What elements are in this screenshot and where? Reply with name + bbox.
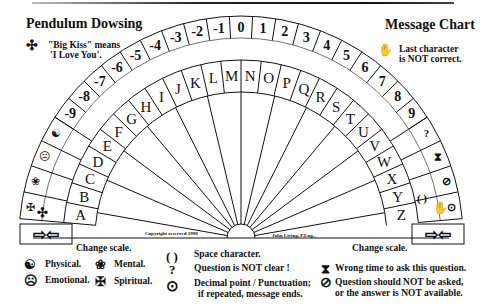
- legend-space: Space character.: [194, 249, 261, 260]
- yin-yang-icon: ☯: [24, 259, 36, 271]
- legend-should-not: Question should NOT be asked, or the ans…: [335, 277, 463, 299]
- space-cell[interactable]: ( ): [417, 192, 427, 205]
- letter-cell-H[interactable]: H: [140, 99, 151, 115]
- number-cell-2[interactable]: 2: [281, 24, 288, 39]
- number-cell-0[interactable]: 0: [238, 20, 245, 35]
- letter-cell-O[interactable]: O: [263, 70, 274, 86]
- number-cell-6[interactable]: 6: [362, 60, 369, 75]
- legend-wrong-time: Wrong time to ask this question.: [335, 263, 466, 274]
- letter-cell-X[interactable]: X: [386, 171, 397, 187]
- letter-cell-P[interactable]: P: [282, 75, 290, 91]
- prohibited-icon: ⊘: [320, 277, 332, 289]
- number-cell-9[interactable]: 9: [408, 106, 415, 121]
- legend-question: Question is NOT clear !: [194, 263, 290, 274]
- last-char-note: Last character is NOT correct.: [399, 44, 462, 64]
- last-char-note-line2: is NOT correct.: [399, 54, 462, 64]
- letter-cell-F[interactable]: F: [114, 124, 122, 140]
- legend-decimal-line1: Decimal point / Punctuation;: [194, 278, 311, 289]
- letter-cell-Q[interactable]: Q: [299, 81, 310, 97]
- number-cell--9[interactable]: -9: [64, 106, 76, 121]
- letter-cell-K[interactable]: K: [190, 75, 201, 91]
- number-cell--8[interactable]: -8: [78, 89, 90, 104]
- left-symbol-cell-0[interactable]: ☯: [51, 127, 61, 139]
- letter-cell-Y[interactable]: Y: [392, 189, 403, 205]
- right-symbol-cell-1[interactable]: ⧗: [434, 150, 442, 162]
- letter-cell-G[interactable]: G: [126, 111, 137, 127]
- right-symbol-cell-3[interactable]: ⊙: [447, 201, 456, 213]
- question-icon: ?: [169, 264, 176, 276]
- left-symbol-cell-1[interactable]: ☹: [39, 150, 50, 162]
- letter-cell-R[interactable]: R: [316, 89, 326, 105]
- change-scale-left-label: Change scale.: [76, 243, 131, 254]
- letter-cell-J[interactable]: J: [175, 81, 181, 97]
- big-kiss-icon: ✣: [26, 40, 38, 52]
- hand-cell[interactable]: ✋: [433, 201, 448, 215]
- number-cell-4[interactable]: 4: [323, 38, 330, 53]
- decimal-point-icon: ⊙: [166, 280, 179, 292]
- right-symbol-cell-0[interactable]: ?: [424, 127, 430, 139]
- number-cell-8[interactable]: 8: [394, 89, 401, 104]
- number-cell-3[interactable]: 3: [303, 30, 310, 45]
- letter-cell-S[interactable]: S: [332, 99, 340, 115]
- number-cell-5[interactable]: 5: [343, 48, 350, 63]
- legend-mental: Mental.: [114, 259, 145, 270]
- number-cell-7[interactable]: 7: [379, 74, 386, 89]
- number-cell--6[interactable]: -6: [111, 60, 123, 75]
- number-cell--2[interactable]: -2: [191, 24, 203, 39]
- big-kiss-cell[interactable]: ✣: [37, 205, 48, 220]
- last-char-note-line1: Last character: [399, 44, 462, 54]
- big-kiss-note-line1: "Big Kiss" means: [48, 40, 120, 50]
- arrows-right-icon[interactable]: ⇨⇦: [425, 226, 451, 243]
- sad-face-icon: ☹: [24, 275, 38, 287]
- legend-emotional: Emotional.: [45, 275, 90, 286]
- hourglass-icon: ⧗: [321, 263, 330, 275]
- letter-cell-V[interactable]: V: [369, 138, 380, 154]
- author-text: John Living, P.Eng.,: [272, 233, 315, 238]
- copyright-text: Copyright reserved 1998: [145, 231, 198, 236]
- letter-cell-Z[interactable]: Z: [397, 207, 406, 223]
- number-cell-1[interactable]: 1: [260, 21, 267, 36]
- left-symbol-cell-2[interactable]: ❀: [31, 175, 40, 187]
- big-kiss-note: "Big Kiss" means 'I Love You'.: [48, 40, 120, 60]
- number-cell--4[interactable]: -4: [149, 38, 161, 53]
- letter-cell-C[interactable]: C: [85, 171, 95, 187]
- letter-cell-N[interactable]: N: [245, 68, 256, 84]
- letter-cell-M[interactable]: M: [225, 68, 238, 84]
- letter-cell-A[interactable]: A: [75, 207, 86, 223]
- number-cell--3[interactable]: -3: [170, 30, 182, 45]
- number-cell--5[interactable]: -5: [130, 48, 142, 63]
- letter-cell-T[interactable]: T: [346, 111, 355, 127]
- right-title: Message Chart: [385, 17, 475, 33]
- number-cell--1[interactable]: -1: [213, 21, 225, 36]
- legend-should-not-line1: Question should NOT be asked,: [335, 277, 463, 288]
- letter-cell-L[interactable]: L: [209, 70, 218, 86]
- hand-icon: ✋: [378, 44, 393, 56]
- legend-physical: Physical.: [45, 259, 81, 270]
- letter-cell-B[interactable]: B: [79, 189, 89, 205]
- flower-icon: ❀: [95, 259, 106, 271]
- letter-cell-U[interactable]: U: [358, 124, 369, 140]
- legend-spiritual: Spiritual.: [114, 276, 152, 287]
- arrows-left-icon[interactable]: ⇨⇦: [33, 226, 59, 243]
- right-symbol-cell-2[interactable]: ⊘: [442, 175, 451, 187]
- left-symbol-cell-3[interactable]: ✠: [26, 201, 35, 213]
- left-title: Pendulum Dowsing: [26, 16, 142, 32]
- change-scale-right-label: Change scale.: [352, 243, 407, 254]
- letter-cell-E[interactable]: E: [103, 138, 112, 154]
- legend-decimal: Decimal point / Punctuation; if repeated…: [194, 278, 311, 300]
- letter-cell-W[interactable]: W: [377, 154, 392, 170]
- number-cell--7[interactable]: -7: [94, 74, 106, 89]
- letter-cell-D[interactable]: D: [92, 154, 103, 170]
- legend-should-not-line2: or the answer is NOT available.: [335, 288, 463, 299]
- letter-cell-I[interactable]: I: [159, 89, 164, 105]
- big-kiss-note-line2: 'I Love You'.: [48, 50, 120, 60]
- cross-icon: ✠: [95, 276, 106, 288]
- legend-decimal-line2: if repeated, message ends.: [194, 289, 311, 300]
